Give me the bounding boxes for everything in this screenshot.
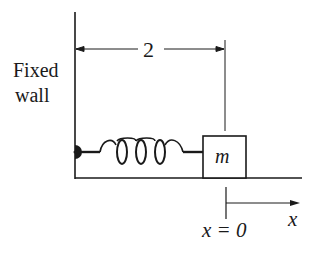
wall-label-fixed: Fixed	[13, 60, 59, 80]
origin-label: x = 0	[202, 220, 247, 241]
axis-label-x: x	[288, 209, 297, 230]
mass-label: m	[215, 146, 229, 166]
x-axis-arrowhead	[290, 200, 300, 206]
spring-mass-diagram: Fixed wall 2 m x x = 0	[0, 0, 317, 258]
spring	[76, 138, 203, 164]
wall-label-wall: wall	[15, 85, 49, 105]
dimension-label: 2	[143, 39, 154, 61]
diagram-drawing	[0, 0, 317, 258]
